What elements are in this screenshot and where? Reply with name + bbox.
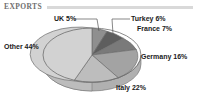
pie-label-italy: Italy 22% <box>116 84 146 92</box>
pie-chart: UK 5% Turkey 6% France 7% Germany 16% It… <box>0 12 197 98</box>
page-title: EXPORTS <box>0 2 42 11</box>
pie-label-turkey: Turkey 6% <box>131 15 166 23</box>
pie-label-germany: Germany 16% <box>141 53 187 61</box>
pie-label-france: France 7% <box>137 25 172 33</box>
pie-slices <box>30 27 138 82</box>
pie-label-other: Other 44% <box>4 43 39 51</box>
leader-line-turkey <box>112 19 130 34</box>
pie-label-uk: UK 5% <box>54 15 76 23</box>
header-divider <box>47 6 193 9</box>
